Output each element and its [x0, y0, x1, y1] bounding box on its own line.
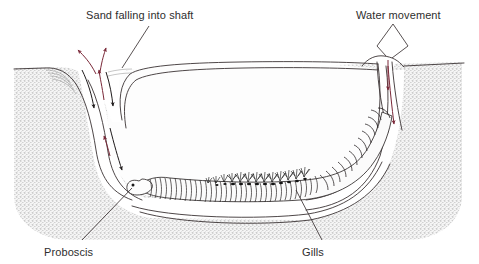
label-water-movement: Water movement: [356, 10, 441, 21]
label-gills: Gills: [302, 247, 324, 258]
label-proboscis: Proboscis: [44, 247, 93, 258]
burrow-diagram-svg: [0, 0, 479, 264]
leader-water-left: [377, 24, 393, 56]
leader-sand-shaft: [122, 26, 149, 68]
leader-water-right: [392, 24, 408, 58]
figure-container: Sand falling into shaft Water movement P…: [0, 0, 479, 264]
proboscis-mouth-dot: [132, 184, 135, 187]
label-sand-falling-into-shaft: Sand falling into shaft: [86, 10, 193, 21]
